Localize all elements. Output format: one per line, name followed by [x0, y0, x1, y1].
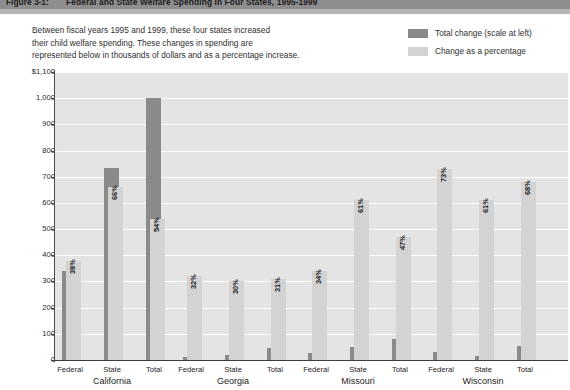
- bar-change-percentage: [150, 219, 165, 360]
- description-line-2: their child welfare spending. These chan…: [32, 37, 372, 50]
- bar-change-percentage: [479, 200, 494, 360]
- bar-value-label: 30%: [231, 280, 240, 295]
- bar-value-label: 31%: [273, 277, 282, 292]
- bar-value-label: 32%: [189, 274, 198, 289]
- bar-change-percentage: [396, 237, 411, 360]
- figure-title: Federal and State Welfare Spending in Fo…: [66, 0, 318, 7]
- x-axis-category-label: Total: [505, 365, 545, 374]
- bar-value-label: 68%: [523, 180, 532, 195]
- title-bar-shade: [0, 9, 570, 14]
- x-axis-category-label: Federal: [171, 365, 211, 374]
- x-axis-category-label: Federal: [50, 365, 90, 374]
- gridline: [55, 72, 568, 73]
- legend-item-total-change: Total change (scale at left): [408, 26, 532, 40]
- bar-value-label: 61%: [356, 198, 365, 213]
- y-axis-tick-label: 600: [5, 198, 55, 207]
- legend-swatch-icon-dark: [408, 29, 428, 38]
- x-axis-line: [54, 360, 568, 361]
- bar-change-percentage: [312, 271, 327, 360]
- y-axis-tick-label: 900: [5, 119, 55, 128]
- figure-description: Between fiscal years 1995 and 1999, thes…: [32, 24, 372, 62]
- x-axis-group-label: California: [52, 376, 172, 386]
- x-axis-category-label: Federal: [296, 365, 336, 374]
- legend-label-total-change: Total change (scale at left): [435, 28, 532, 38]
- y-axis-tick-label: 0: [5, 355, 55, 364]
- bar-value-label: 38%: [68, 259, 77, 274]
- x-axis-group-label: Georgia: [173, 376, 293, 386]
- legend-item-change-percentage: Change as a percentage: [408, 44, 532, 58]
- bar-change-percentage: [108, 187, 123, 360]
- y-axis-tick-label: 700: [5, 172, 55, 181]
- legend-swatch-icon-light: [408, 47, 428, 56]
- x-axis-category-label: State: [92, 365, 132, 374]
- y-axis-tick-label: 500: [5, 224, 55, 233]
- x-axis-group-label: Missouri: [298, 376, 418, 386]
- gridline: [55, 151, 568, 152]
- y-axis-tick-label: 100: [5, 329, 55, 338]
- bar-value-label: 66%: [110, 185, 119, 200]
- plot-area: 38%66%54%32%30%31%34%61%47%73%61%68%: [55, 72, 568, 360]
- y-axis-tick-label: 200: [5, 303, 55, 312]
- y-axis-tick-label: 1,000: [5, 93, 55, 102]
- x-axis-category-label: Federal: [421, 365, 461, 374]
- bar-value-label: 54%: [152, 217, 161, 232]
- x-axis-category-label: Total: [134, 365, 174, 374]
- x-axis-category-label: Total: [255, 365, 295, 374]
- y-axis-tick-label: 300: [5, 276, 55, 285]
- gridline: [55, 98, 568, 99]
- bar-value-label: 61%: [481, 198, 490, 213]
- y-axis-tick-label: 800: [5, 146, 55, 155]
- bar-change-percentage: [437, 169, 452, 360]
- bar-change-percentage: [521, 182, 536, 360]
- x-axis-category-label: State: [463, 365, 503, 374]
- y-axis-line: [54, 70, 55, 362]
- x-axis-group-label: Wisconsin: [423, 376, 543, 386]
- description-line-1: Between fiscal years 1995 and 1999, thes…: [32, 24, 372, 37]
- bar-value-label: 73%: [439, 167, 448, 182]
- y-axis: $1,1001,0009008007006005004003002001000: [0, 0, 55, 390]
- chart-legend: Total change (scale at left) Change as a…: [408, 26, 532, 62]
- gridline: [55, 177, 568, 178]
- bar-value-label: 47%: [398, 235, 407, 250]
- y-axis-tick-label: 400: [5, 250, 55, 259]
- bar-change-percentage: [66, 261, 81, 360]
- legend-label-change-percentage: Change as a percentage: [435, 46, 526, 56]
- description-line-3: represented below in thousands of dollar…: [32, 49, 372, 62]
- gridline: [55, 124, 568, 125]
- y-axis-tick-label: $1,100: [5, 67, 55, 76]
- bar-value-label: 34%: [314, 269, 323, 284]
- x-axis-category-label: State: [338, 365, 378, 374]
- bar-change-percentage: [354, 200, 369, 360]
- chart-figure: Figure 3-1: Federal and State Welfare Sp…: [0, 0, 570, 390]
- x-axis-category-label: Total: [380, 365, 420, 374]
- x-axis-category-label: State: [213, 365, 253, 374]
